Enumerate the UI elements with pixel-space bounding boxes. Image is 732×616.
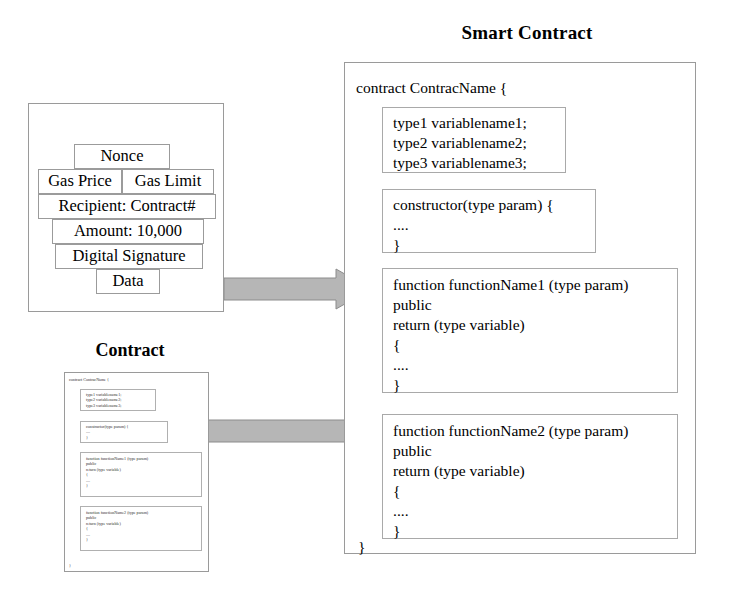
contract-title: Contract [64, 340, 196, 361]
function-close-brace: } [86, 483, 201, 488]
transaction-field-gas-limit: Gas Limit [122, 169, 214, 194]
constructor-close: } [86, 435, 167, 440]
function-close-brace: } [393, 521, 677, 541]
variable-line: type1 variablename1; [393, 113, 565, 133]
function-signature: function functionName2 (type param) [393, 421, 677, 441]
transaction-field-gas-price: Gas Price [38, 169, 122, 194]
function-close-brace: } [86, 537, 201, 542]
transaction-field-recipient: Recipient: Contract# [38, 194, 216, 219]
variable-line: type2 variablename2; [393, 133, 565, 153]
smart-contract-title: Smart Contract [442, 22, 612, 44]
smart-contract-function2-box: function functionName2 (type param) publ… [382, 414, 678, 539]
function-visibility: public [393, 295, 677, 315]
transaction-field-nonce: Nonce [74, 144, 170, 169]
contract-thumbnail-constructor-box: constructor(type param) { .... } [80, 421, 168, 443]
function-returns: return (type variable) [393, 315, 677, 335]
function-returns: return (type variable) [393, 461, 677, 481]
variable-line: type3 variablename3; [393, 153, 565, 173]
contract-thumbnail-variables-box: type1 variablename1; type2 variablename2… [80, 389, 156, 411]
function-close-brace: } [393, 375, 677, 395]
function-body: .... [393, 501, 677, 521]
contract-thumbnail-close-line: } [69, 563, 71, 568]
smart-contract-open-line: contract ContracName { [356, 78, 507, 98]
function-open-brace: { [393, 481, 677, 501]
contract-thumbnail-open-line: contract ContracName { [69, 377, 109, 382]
contract-thumbnail-function2-box: function functionName2 (type param) publ… [80, 506, 202, 551]
constructor-body: .... [393, 215, 595, 235]
transaction-field-amount: Amount: 10,000 [52, 219, 204, 244]
transaction-field-data: Data [96, 269, 160, 294]
smart-contract-variables-box: type1 variablename1; type2 variablename2… [382, 107, 566, 173]
function-signature: function functionName1 (type param) [393, 275, 677, 295]
smart-contract-close-line: } [358, 537, 365, 557]
smart-contract-constructor-box: constructor(type param) { .... } [382, 189, 596, 253]
constructor-close: } [393, 235, 595, 255]
variable-line: type3 variablename3; [86, 403, 155, 408]
transaction-field-digital-signature: Digital Signature [55, 244, 203, 269]
contract-thumbnail-function1-box: function functionName1 (type param) publ… [80, 452, 202, 497]
function-body: .... [393, 355, 677, 375]
constructor-signature: constructor(type param) { [393, 195, 595, 215]
function-visibility: public [393, 441, 677, 461]
smart-contract-function1-box: function functionName1 (type param) publ… [382, 268, 678, 393]
function-open-brace: { [393, 335, 677, 355]
